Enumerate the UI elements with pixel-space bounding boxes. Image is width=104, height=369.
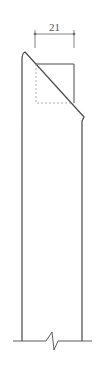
- section-drawing: 21: [0, 0, 104, 369]
- post-outline: [22, 52, 84, 341]
- break-line: [13, 332, 92, 350]
- dimension-label: 21: [49, 21, 60, 33]
